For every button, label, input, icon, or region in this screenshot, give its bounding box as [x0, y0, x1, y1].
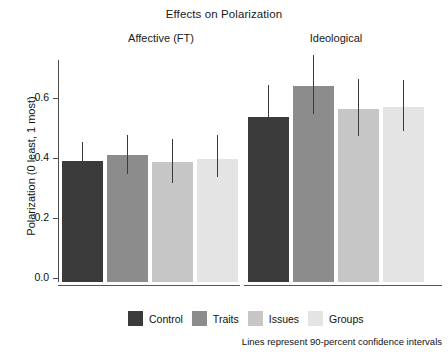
bar-affective-ft-groups[interactable]	[197, 159, 238, 282]
bar-ideological-traits[interactable]	[293, 86, 334, 282]
legend-swatch-groups	[308, 311, 323, 326]
bar-ideological-groups[interactable]	[383, 107, 424, 282]
error-bar-affective-ft-issues	[172, 139, 173, 183]
legend-item-issues[interactable]: Issues	[248, 311, 299, 326]
legend-swatch-traits	[192, 311, 207, 326]
error-bar-ideological-control	[268, 85, 269, 147]
legend-item-groups[interactable]: Groups	[308, 311, 363, 326]
legend-label-traits: Traits	[213, 313, 239, 325]
legend-label-issues: Issues	[269, 313, 299, 325]
legend-label-control: Control	[149, 313, 183, 325]
error-bar-affective-ft-traits	[127, 135, 128, 175]
error-bar-affective-ft-control	[82, 142, 83, 181]
chart-legend: Control Traits Issues Groups	[128, 311, 373, 326]
error-bar-affective-ft-groups	[217, 135, 218, 177]
plot-area	[0, 0, 448, 356]
group-axis-affective-ft	[58, 285, 240, 286]
confidence-interval-note: Lines represent 90-percent confidence in…	[242, 336, 442, 347]
legend-swatch-control	[128, 311, 143, 326]
error-bar-ideological-traits	[313, 55, 314, 114]
legend-item-control[interactable]: Control	[128, 311, 183, 326]
error-bar-ideological-groups	[403, 80, 404, 131]
polarization-bar-chart-figure: Effects on Polarization Affective (FT) I…	[0, 0, 448, 356]
legend-item-traits[interactable]: Traits	[192, 311, 239, 326]
error-bar-ideological-issues	[358, 79, 359, 136]
group-axis-ideological	[244, 285, 442, 286]
legend-swatch-issues	[248, 311, 263, 326]
legend-label-groups: Groups	[329, 313, 363, 325]
